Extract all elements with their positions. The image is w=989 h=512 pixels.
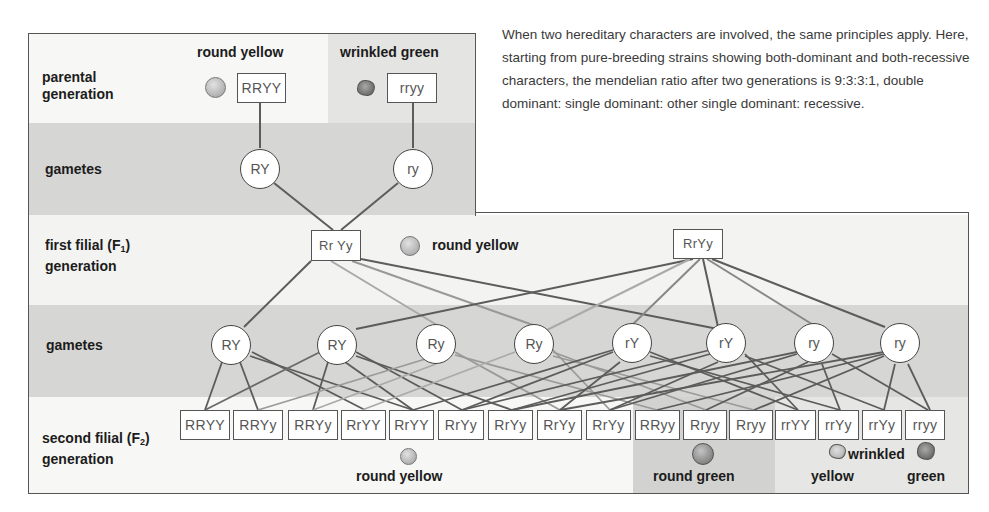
- f2-genotype-box: RRYy: [233, 410, 283, 440]
- gametes-label-top: gametes: [45, 161, 102, 178]
- round-yellow-pea-icon: [400, 448, 417, 465]
- label-line: generation: [45, 258, 130, 275]
- parental-right-trait: wrinkled green: [340, 44, 439, 60]
- f2-genotype-box: RrYY: [341, 410, 386, 440]
- f1-trait: round yellow: [432, 237, 518, 253]
- label-line: first filial (F1): [45, 237, 130, 258]
- gamete-circle: rY: [612, 323, 652, 363]
- parental-genotype-left: RRYY: [237, 73, 286, 103]
- f2-genotype-box: RRYy: [288, 410, 338, 440]
- f1-generation-label: first filial (F1) generation: [45, 237, 130, 275]
- label-line: generation: [42, 451, 150, 468]
- round-pea-icon: [400, 236, 420, 256]
- label-line: parental: [42, 69, 114, 86]
- parental-generation-label: parental generation: [42, 69, 114, 103]
- f2-genotype-box: RRYY: [180, 410, 230, 440]
- gamete-circle: RY: [211, 325, 251, 365]
- parental-genotype-right: rryy: [387, 73, 437, 103]
- f2-genotype-box: RrYY: [389, 410, 434, 440]
- round-green-pea-icon: [692, 443, 714, 465]
- wrinkled-green-pea-icon: [917, 442, 935, 460]
- parental-left-trait: round yellow: [197, 44, 283, 60]
- f2-genotype-box: rrYy: [818, 410, 859, 440]
- f2-wrinkled-green-label: green: [907, 468, 945, 484]
- f2-wrinkled-label: wrinkled: [848, 446, 905, 462]
- gamete-circle: RY: [317, 325, 357, 365]
- label-text: first filial (F: [45, 237, 120, 253]
- f2-genotype-box: Rryy: [683, 410, 727, 440]
- gamete-circle: ry: [393, 149, 433, 189]
- gamete-circle: Ry: [514, 324, 554, 364]
- f2-genotype-box: RrYy: [488, 410, 533, 440]
- label-line: generation: [42, 86, 114, 103]
- f2-genotype-box: Rryy: [729, 410, 773, 440]
- label-line: second filial (F2): [42, 430, 150, 451]
- f2-genotype-box: RRyy: [635, 410, 680, 440]
- round-pea-icon: [205, 77, 226, 98]
- f1-genotype-left: Rr Yy: [311, 230, 361, 261]
- gamete-circle: rY: [706, 323, 746, 363]
- f2-wrinkled-yellow-label: yellow: [811, 468, 854, 484]
- label-text: second filial (F: [42, 430, 140, 446]
- label-text: ): [145, 430, 150, 446]
- gametes-label-mid: gametes: [46, 337, 103, 354]
- label-text: ): [125, 237, 130, 253]
- f2-generation-label: second filial (F2) generation: [42, 430, 150, 468]
- f2-genotype-box: RrYy: [438, 410, 484, 440]
- gamete-circle: ry: [794, 323, 834, 363]
- f2-genotype-box: RrYy: [586, 410, 631, 440]
- f1-genotype-right: RrYy: [673, 229, 723, 259]
- description-text: When two hereditary characters are invol…: [502, 23, 972, 115]
- f2-genotype-box: rryy: [905, 410, 945, 440]
- f2-round-green-label: round green: [653, 468, 735, 484]
- f2-genotype-box: RrYy: [537, 410, 582, 440]
- gamete-circle: Ry: [416, 324, 456, 364]
- wrinkled-yellow-pea-icon: [829, 444, 846, 459]
- wrinkled-pea-icon: [357, 80, 375, 96]
- f2-round-yellow-label: round yellow: [356, 468, 442, 484]
- gamete-circle: ry: [880, 323, 920, 363]
- f2-genotype-box: rrYY: [775, 410, 816, 440]
- gamete-circle: RY: [240, 149, 280, 189]
- f2-genotype-box: rrYy: [862, 410, 902, 440]
